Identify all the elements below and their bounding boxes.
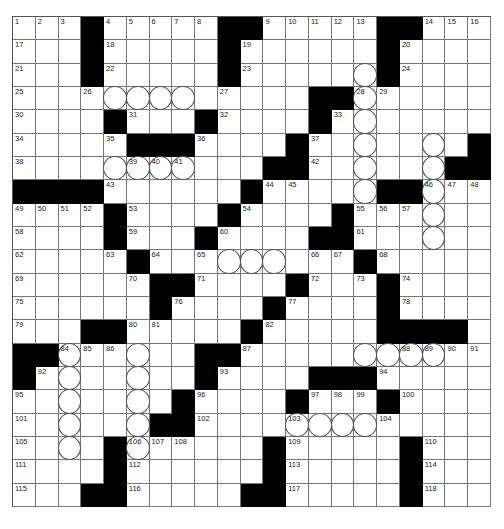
grid-cell[interactable] xyxy=(309,64,332,87)
grid-cell[interactable] xyxy=(445,87,468,110)
grid-cell[interactable] xyxy=(172,110,195,133)
grid-cell[interactable] xyxy=(400,87,423,110)
grid-cell[interactable]: 118 xyxy=(423,484,446,507)
grid-cell[interactable] xyxy=(263,274,286,297)
grid-cell[interactable]: 26 xyxy=(81,87,104,110)
grid-cell[interactable] xyxy=(354,180,377,203)
grid-cell[interactable] xyxy=(36,110,59,133)
grid-cell[interactable] xyxy=(468,110,491,133)
grid-cell[interactable]: 67 xyxy=(332,250,355,273)
grid-cell[interactable] xyxy=(195,40,218,63)
grid-cell[interactable] xyxy=(263,87,286,110)
grid-cell[interactable] xyxy=(172,40,195,63)
grid-cell[interactable] xyxy=(127,367,150,390)
grid-cell[interactable] xyxy=(377,110,400,133)
grid-cell[interactable] xyxy=(81,110,104,133)
grid-cell[interactable] xyxy=(468,320,491,343)
grid-cell[interactable] xyxy=(241,274,264,297)
grid-cell[interactable]: 102 xyxy=(195,414,218,437)
grid-cell[interactable] xyxy=(195,180,218,203)
grid-cell[interactable] xyxy=(36,414,59,437)
grid-cell[interactable] xyxy=(59,40,82,63)
grid-cell[interactable]: 86 xyxy=(104,344,127,367)
grid-cell[interactable] xyxy=(263,64,286,87)
grid-cell[interactable]: 105 xyxy=(13,437,36,460)
grid-cell[interactable]: 100 xyxy=(400,390,423,413)
grid-cell[interactable]: 29 xyxy=(377,87,400,110)
grid-cell[interactable]: 109 xyxy=(286,437,309,460)
grid-cell[interactable]: 114 xyxy=(423,460,446,483)
grid-cell[interactable]: 8 xyxy=(195,17,218,40)
grid-cell[interactable] xyxy=(423,134,446,157)
grid-cell[interactable] xyxy=(127,297,150,320)
grid-cell[interactable]: 44 xyxy=(263,180,286,203)
grid-cell[interactable] xyxy=(423,390,446,413)
grid-cell[interactable]: 47 xyxy=(445,180,468,203)
grid-cell[interactable] xyxy=(36,390,59,413)
grid-cell[interactable] xyxy=(400,110,423,133)
grid-cell[interactable] xyxy=(377,437,400,460)
grid-cell[interactable] xyxy=(332,320,355,343)
grid-cell[interactable] xyxy=(445,250,468,273)
grid-cell[interactable] xyxy=(309,40,332,63)
grid-cell[interactable] xyxy=(468,437,491,460)
grid-cell[interactable]: 5 xyxy=(127,17,150,40)
grid-cell[interactable] xyxy=(263,344,286,367)
grid-cell[interactable]: 77 xyxy=(286,297,309,320)
grid-cell[interactable]: 31 xyxy=(127,110,150,133)
grid-cell[interactable] xyxy=(263,227,286,250)
grid-cell[interactable] xyxy=(127,64,150,87)
grid-cell[interactable] xyxy=(36,227,59,250)
grid-cell[interactable] xyxy=(104,87,127,110)
grid-cell[interactable] xyxy=(59,320,82,343)
grid-cell[interactable] xyxy=(468,297,491,320)
grid-cell[interactable]: 93 xyxy=(218,367,241,390)
grid-cell[interactable]: 49 xyxy=(13,204,36,227)
grid-cell[interactable] xyxy=(332,460,355,483)
grid-cell[interactable]: 16 xyxy=(468,17,491,40)
grid-cell[interactable] xyxy=(172,204,195,227)
grid-cell[interactable] xyxy=(468,274,491,297)
grid-cell[interactable]: 58 xyxy=(13,227,36,250)
grid-cell[interactable] xyxy=(81,414,104,437)
grid-cell[interactable] xyxy=(195,437,218,460)
grid-cell[interactable]: 106 xyxy=(127,437,150,460)
grid-cell[interactable] xyxy=(127,180,150,203)
grid-cell[interactable] xyxy=(423,367,446,390)
grid-cell[interactable]: 115 xyxy=(13,484,36,507)
grid-cell[interactable] xyxy=(332,134,355,157)
grid-cell[interactable] xyxy=(309,320,332,343)
grid-cell[interactable]: 53 xyxy=(127,204,150,227)
grid-cell[interactable] xyxy=(468,64,491,87)
grid-cell[interactable] xyxy=(36,460,59,483)
grid-cell[interactable] xyxy=(354,64,377,87)
grid-cell[interactable]: 2 xyxy=(36,17,59,40)
grid-cell[interactable]: 50 xyxy=(36,204,59,227)
grid-cell[interactable] xyxy=(81,437,104,460)
grid-cell[interactable]: 3 xyxy=(59,17,82,40)
grid-cell[interactable] xyxy=(241,437,264,460)
grid-cell[interactable]: 74 xyxy=(400,274,423,297)
grid-cell[interactable] xyxy=(241,227,264,250)
grid-cell[interactable]: 10 xyxy=(286,17,309,40)
grid-cell[interactable] xyxy=(423,110,446,133)
grid-cell[interactable] xyxy=(104,297,127,320)
grid-cell[interactable] xyxy=(309,437,332,460)
grid-cell[interactable] xyxy=(263,367,286,390)
grid-cell[interactable] xyxy=(286,227,309,250)
grid-cell[interactable] xyxy=(241,414,264,437)
grid-cell[interactable] xyxy=(377,344,400,367)
grid-cell[interactable] xyxy=(445,367,468,390)
grid-cell[interactable]: 107 xyxy=(150,437,173,460)
grid-cell[interactable]: 112 xyxy=(127,460,150,483)
grid-cell[interactable] xyxy=(354,344,377,367)
grid-cell[interactable] xyxy=(150,180,173,203)
grid-cell[interactable] xyxy=(468,250,491,273)
grid-cell[interactable]: 23 xyxy=(241,64,264,87)
grid-cell[interactable] xyxy=(172,460,195,483)
grid-cell[interactable]: 19 xyxy=(241,40,264,63)
grid-cell[interactable] xyxy=(354,460,377,483)
grid-cell[interactable] xyxy=(218,297,241,320)
grid-cell[interactable] xyxy=(468,367,491,390)
grid-cell[interactable] xyxy=(36,274,59,297)
